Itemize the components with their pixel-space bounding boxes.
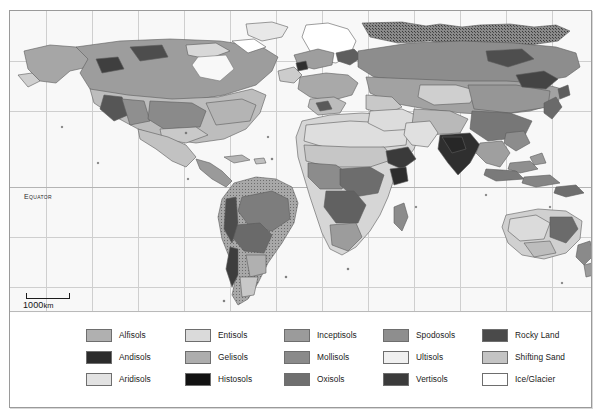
map-legend: AlfisolsEntisolsInceptisolsSpodosolsRock… bbox=[10, 313, 591, 407]
legend-swatch bbox=[383, 351, 409, 364]
legend-swatch bbox=[86, 329, 112, 342]
scale-bar: 1000km bbox=[23, 292, 87, 310]
legend-label: Aridisols bbox=[119, 374, 151, 384]
legend-label: Ice/Glacier bbox=[515, 374, 555, 384]
legend-item[interactable]: Oxisols bbox=[284, 368, 383, 390]
legend-label: Spodosols bbox=[416, 330, 455, 340]
legend-item[interactable]: Alfisols bbox=[86, 324, 185, 346]
legend-label: Vertisols bbox=[416, 374, 448, 384]
soil-orders-figure: Equator 1000km AlfisolsEntisolsInceptiso… bbox=[0, 0, 603, 418]
legend-grid: AlfisolsEntisolsInceptisolsSpodosolsRock… bbox=[10, 324, 591, 390]
scale-bar-label: 1000km bbox=[23, 300, 87, 310]
legend-swatch bbox=[284, 351, 310, 364]
legend-swatch bbox=[185, 351, 211, 364]
legend-swatch bbox=[284, 329, 310, 342]
legend-label: Gelisols bbox=[218, 352, 248, 362]
scale-distance: 1000 bbox=[23, 300, 43, 310]
legend-item[interactable]: Entisols bbox=[185, 324, 284, 346]
legend-label: Rocky Land bbox=[515, 330, 559, 340]
legend-label: Alfisols bbox=[119, 330, 146, 340]
legend-swatch bbox=[185, 373, 211, 386]
legend-swatch bbox=[482, 329, 508, 342]
legend-item[interactable]: Histosols bbox=[185, 368, 284, 390]
legend-item[interactable]: Rocky Land bbox=[482, 324, 581, 346]
legend-swatch bbox=[86, 373, 112, 386]
legend-label: Entisols bbox=[218, 330, 247, 340]
legend-label: Shifting Sand bbox=[515, 352, 565, 362]
legend-swatch bbox=[284, 373, 310, 386]
legend-item[interactable]: Mollisols bbox=[284, 346, 383, 368]
legend-swatch bbox=[383, 329, 409, 342]
legend-label: Mollisols bbox=[317, 352, 349, 362]
legend-item[interactable]: Shifting Sand bbox=[482, 346, 581, 368]
legend-swatch bbox=[482, 373, 508, 386]
legend-swatch bbox=[185, 329, 211, 342]
scale-bar-line bbox=[26, 292, 70, 299]
legend-label: Histosols bbox=[218, 374, 252, 384]
legend-item[interactable]: Ultisols bbox=[383, 346, 482, 368]
legend-swatch bbox=[86, 351, 112, 364]
legend-label: Andisols bbox=[119, 352, 151, 362]
legend-label: Oxisols bbox=[317, 374, 345, 384]
world-map: Equator 1000km bbox=[10, 11, 591, 312]
legend-item[interactable]: Inceptisols bbox=[284, 324, 383, 346]
legend-swatch bbox=[482, 351, 508, 364]
legend-label: Ultisols bbox=[416, 352, 443, 362]
legend-item[interactable]: Gelisols bbox=[185, 346, 284, 368]
legend-item[interactable]: Andisols bbox=[86, 346, 185, 368]
scale-unit: km bbox=[43, 301, 53, 310]
landmass-layer bbox=[10, 11, 591, 312]
legend-item[interactable]: Vertisols bbox=[383, 368, 482, 390]
equator-label: Equator bbox=[24, 190, 52, 201]
legend-label: Inceptisols bbox=[317, 330, 357, 340]
legend-item[interactable]: Ice/Glacier bbox=[482, 368, 581, 390]
legend-swatch bbox=[383, 373, 409, 386]
legend-item[interactable]: Aridisols bbox=[86, 368, 185, 390]
legend-item[interactable]: Spodosols bbox=[383, 324, 482, 346]
